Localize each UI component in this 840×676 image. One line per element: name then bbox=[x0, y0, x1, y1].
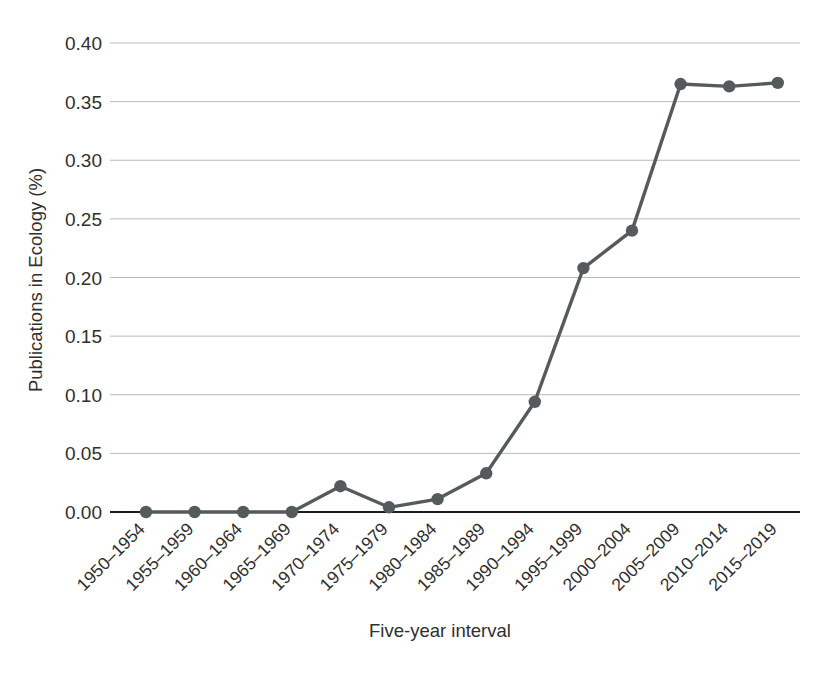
y-axis-tick-label: 0.35 bbox=[65, 92, 102, 113]
data-point-marker: 1980–1984: 0.011 bbox=[431, 493, 443, 505]
data-point-marker: 2005–2009: 0.365 bbox=[674, 78, 686, 90]
data-point-marker: 1960–1964: 0.000 bbox=[237, 506, 249, 518]
data-point-marker: 1970–1974: 0.022 bbox=[334, 480, 346, 492]
data-point-marker: 1995–1999: 0.208 bbox=[577, 262, 589, 274]
data-point-marker: 2015–2019: 0.366 bbox=[772, 77, 784, 89]
data-point-marker: 1950–1954: 0.000 bbox=[140, 506, 152, 518]
data-point-marker: 1990–1994: 0.094 bbox=[529, 396, 541, 408]
line-chart: 0.000.050.100.150.200.250.300.350.40 195… bbox=[0, 0, 840, 676]
data-point-marker: 2010–2014: 0.363 bbox=[723, 80, 735, 92]
data-point-marker: 2000–2004: 0.240 bbox=[626, 224, 638, 236]
data-point-marker: 1975–1979: 0.004 bbox=[383, 501, 395, 513]
y-axis-tick-label: 0.05 bbox=[65, 443, 102, 464]
y-axis-tick-label: 0.15 bbox=[65, 326, 102, 347]
data-point-marker: 1965–1969: 0.000 bbox=[286, 506, 298, 518]
y-axis-tick-label: 0.00 bbox=[65, 502, 102, 523]
y-axis-tick-label: 0.20 bbox=[65, 268, 102, 289]
data-point-marker: 1955–1959: 0.000 bbox=[188, 506, 200, 518]
y-axis-tick-label: 0.40 bbox=[65, 33, 102, 54]
y-axis-tick-label: 0.30 bbox=[65, 150, 102, 171]
chart-canvas: 0.000.050.100.150.200.250.300.350.40 195… bbox=[0, 0, 840, 676]
x-axis-title: Five-year interval bbox=[369, 620, 511, 641]
data-point-marker: 1985–1989: 0.033 bbox=[480, 467, 492, 479]
y-axis-tick-labels: 0.000.050.100.150.200.250.300.350.40 bbox=[65, 33, 102, 523]
y-axis-tick-label: 0.10 bbox=[65, 385, 102, 406]
y-axis-title: Publications in Ecology (%) bbox=[25, 168, 46, 392]
y-axis-tick-label: 0.25 bbox=[65, 209, 102, 230]
